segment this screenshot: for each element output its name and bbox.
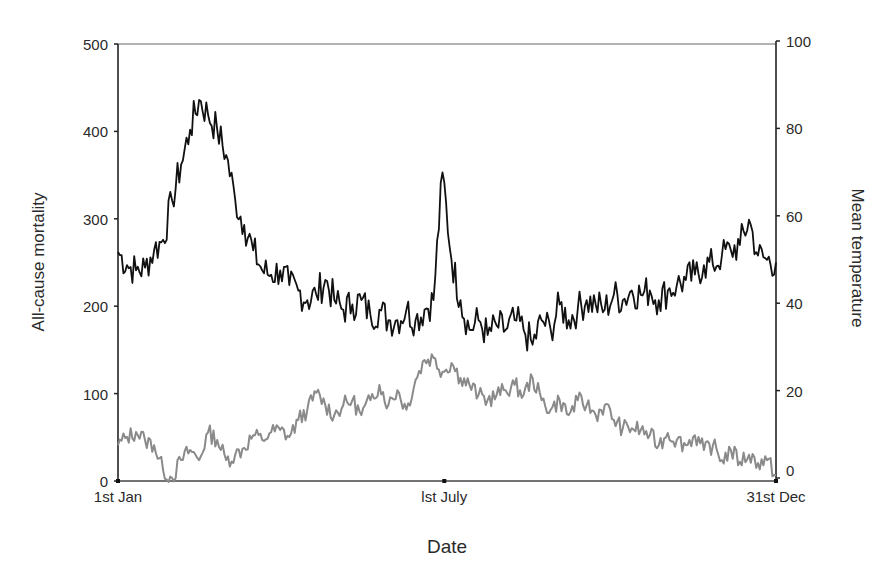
left-y-ticks: 0100200300400500 — [83, 36, 118, 490]
left-tick-label: 400 — [83, 123, 108, 140]
x-ticks: 1st Janlst July31st Dec — [94, 479, 806, 505]
x-tick-label: 1st Jan — [94, 488, 142, 505]
left-tick-label: 500 — [83, 36, 108, 53]
x-tick-mark — [774, 479, 778, 483]
temperature-series-line — [118, 354, 776, 482]
right-axis-title: Mean temperature — [848, 189, 867, 328]
right-tick-label: 0 — [786, 462, 794, 479]
plot-frame — [118, 41, 776, 481]
left-tick-label: 300 — [83, 211, 108, 228]
right-tick-label: 80 — [786, 120, 803, 137]
left-tick-label: 200 — [83, 298, 108, 315]
x-tick-mark — [116, 479, 120, 483]
left-axis-title: All-cause mortality — [29, 192, 48, 331]
right-tick-label: 20 — [786, 383, 803, 400]
right-tick-label: 40 — [786, 295, 803, 312]
right-tick-label: 60 — [786, 208, 803, 225]
x-tick-label: lst July — [421, 488, 467, 505]
mortality-series-line — [118, 100, 776, 351]
left-tick-label: 100 — [83, 386, 108, 403]
x-axis-title: Date — [427, 536, 467, 557]
right-y-ticks: 020406080100 — [776, 33, 811, 479]
right-tick-label: 100 — [786, 33, 811, 50]
x-tick-label: 31st Dec — [746, 488, 806, 505]
x-tick-mark — [442, 479, 446, 483]
chart-canvas: 0100200300400500 020406080100 1st Janlst… — [0, 0, 884, 575]
